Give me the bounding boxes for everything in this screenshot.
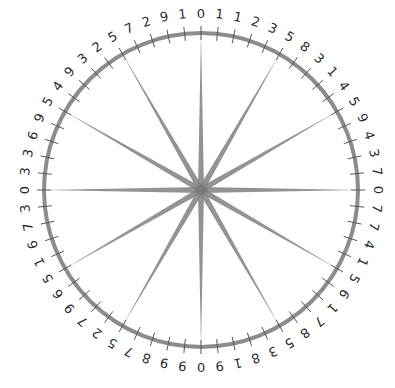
- digit-label: 1: [178, 6, 188, 22]
- fibonacci-dial: 0112358314594370774156178538190998752796…: [0, 0, 395, 388]
- digit-label: 3: [20, 148, 36, 159]
- digit-label: 4: [336, 78, 353, 94]
- digit-label: 1: [31, 255, 48, 269]
- digit-label: 8: [249, 350, 262, 367]
- spoke: [198, 54, 279, 191]
- digit-label: 9: [61, 300, 78, 316]
- spoke: [198, 33, 204, 190]
- spoke: [198, 189, 279, 326]
- digit-label: 1: [324, 300, 341, 316]
- digit-label: 8: [297, 38, 313, 55]
- digit-label: 1: [354, 255, 371, 269]
- digit-label: 1: [324, 63, 341, 79]
- spoke: [123, 189, 204, 326]
- spoke: [201, 187, 358, 193]
- spoke: [44, 187, 201, 193]
- digit-label: 6: [49, 286, 66, 302]
- digit-label: 5: [39, 94, 56, 109]
- digit-label: 6: [24, 238, 41, 251]
- digit-label: 1: [232, 9, 243, 25]
- spoke: [65, 187, 202, 268]
- digit-label: 0: [17, 186, 32, 194]
- digit-label: 9: [354, 111, 371, 125]
- digit-label: 4: [49, 78, 66, 94]
- digit-label: 7: [74, 313, 90, 330]
- spoke: [198, 190, 204, 347]
- digit-label: 9: [31, 111, 48, 125]
- digit-label: 5: [105, 28, 120, 45]
- digit-label: 5: [346, 271, 363, 286]
- digit-label: 4: [361, 129, 378, 142]
- digit-label: 3: [17, 204, 33, 214]
- digit-label: 2: [89, 38, 105, 55]
- digit-label: 5: [346, 94, 363, 109]
- digit-label: 0: [197, 6, 205, 21]
- spoke: [200, 187, 337, 268]
- digit-label: 3: [311, 50, 327, 67]
- digit-label: 7: [20, 221, 36, 232]
- digit-label: 3: [366, 148, 382, 159]
- digit-label: 7: [369, 204, 385, 214]
- digit-label: 5: [282, 28, 297, 45]
- digit-label: 7: [122, 20, 136, 37]
- digit-label: 7: [311, 313, 327, 330]
- digit-label: 5: [282, 335, 297, 352]
- digit-label: 9: [61, 63, 78, 79]
- digit-label: 1: [215, 6, 225, 22]
- digit-label: 2: [140, 13, 153, 30]
- digit-label: 8: [297, 325, 313, 342]
- digit-label: 2: [249, 13, 262, 30]
- digit-label: 5: [39, 271, 56, 286]
- digit-label: 7: [122, 343, 136, 360]
- spoke: [65, 112, 202, 193]
- spoke: [123, 54, 204, 191]
- digit-label: 9: [178, 358, 188, 374]
- digit-label: 9: [159, 9, 170, 25]
- digit-label: 6: [336, 286, 353, 302]
- digit-label: 7: [366, 221, 382, 232]
- digit-label: 7: [369, 167, 385, 177]
- digit-label: 4: [361, 238, 378, 251]
- digit-label: 3: [17, 167, 33, 177]
- digit-label: 2: [89, 325, 105, 342]
- digit-label: 9: [159, 355, 170, 371]
- digit-label: 9: [215, 358, 225, 374]
- digit-label: 1: [232, 355, 243, 371]
- digit-label: 3: [266, 20, 280, 37]
- digit-label: 6: [24, 129, 41, 142]
- digit-label: 0: [197, 360, 205, 375]
- digit-label: 3: [266, 343, 280, 360]
- center-hub: [196, 185, 206, 195]
- digit-label: 3: [74, 50, 90, 67]
- digit-label: 5: [105, 335, 120, 352]
- spoke: [200, 112, 337, 193]
- digit-label: 8: [140, 350, 153, 367]
- digit-label: 0: [371, 186, 386, 194]
